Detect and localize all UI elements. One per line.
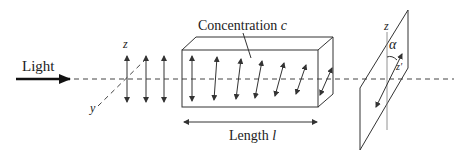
y-axis [98,58,147,106]
z-prime-label: z′ [395,61,403,72]
sample-cell [182,37,333,107]
optical-rotation-diagram: Light y z Concentration c Length l [0,0,454,158]
length-label: Length l [229,128,276,143]
alpha-label: α [389,37,397,52]
z-axis-label: z [122,37,128,51]
y-axis-label: y [89,101,96,115]
light-label: Light [22,58,55,74]
analyzer-z-label: z [383,19,389,33]
concentration-label: Concentration c [198,18,288,33]
rotation-angle-arc [387,56,397,60]
